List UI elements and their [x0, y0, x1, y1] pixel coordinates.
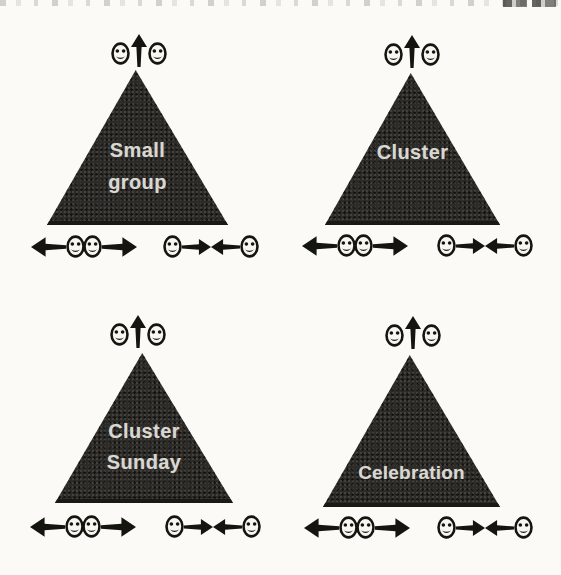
right-arrow-icon — [456, 518, 485, 538]
smiley-face-icon — [356, 516, 375, 539]
smiley-face-icon — [422, 324, 441, 347]
triangle-label: Celebration — [323, 457, 500, 488]
up-arrow-icon — [405, 316, 421, 349]
left-arrow-icon — [485, 518, 514, 538]
scanned-diagram-page: Small group Cluster — [0, 0, 561, 575]
smiley-face-icon — [437, 516, 456, 539]
panel-celebration: Celebration — [0, 0, 561, 575]
triangle-label-line1: Celebration — [323, 457, 500, 488]
bottom-left-icon-group — [304, 516, 410, 539]
smiley-face-icon — [385, 324, 404, 347]
smiley-face-icon — [514, 516, 533, 539]
right-arrow-icon — [375, 518, 410, 538]
top-icon-group — [385, 316, 441, 349]
bottom-right-icon-group — [437, 516, 533, 539]
triangle-shape: Celebration — [323, 355, 500, 507]
left-arrow-icon — [304, 518, 339, 538]
